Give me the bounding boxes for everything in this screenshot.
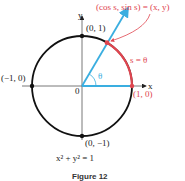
- point-top: [80, 34, 84, 38]
- point-bottom: [80, 134, 84, 138]
- arc-s: [107, 43, 132, 86]
- unit-circle-diagram: (cos s, sin s) = (x, y) y (0, 1) (−1, 0)…: [0, 0, 185, 181]
- y-axis-label: y: [78, 10, 83, 20]
- point-label: (cos s, sin s) = (x, y): [96, 2, 170, 12]
- right-point-label: (1, 0): [133, 89, 153, 99]
- arc-label: s = θ: [130, 55, 147, 65]
- point-right: [130, 84, 134, 88]
- top-point-label: (0, 1): [86, 23, 106, 33]
- origin-label: 0: [75, 86, 80, 96]
- bottom-point-label: (0, −1): [85, 138, 110, 148]
- figure-caption: Figure 12: [72, 172, 108, 181]
- left-point-label: (−1, 0): [1, 73, 26, 83]
- point-terminal: [105, 40, 110, 45]
- equation-label: x² + y² = 1: [56, 153, 94, 163]
- angle-arc: [89, 74, 96, 86]
- point-left: [30, 84, 34, 88]
- angle-label: θ: [98, 71, 102, 81]
